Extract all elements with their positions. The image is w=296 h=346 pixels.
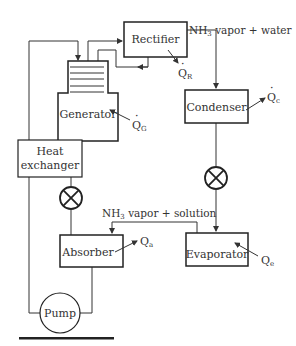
pump-label: Pump xyxy=(44,307,76,320)
evaporator-to-absorber-line xyxy=(112,222,197,233)
absorber-to-pump-line xyxy=(80,267,92,313)
expansion-valve-left-icon xyxy=(60,187,82,209)
evaporator-q-label: Qe xyxy=(261,254,274,268)
absorber-q-label: Qa xyxy=(140,235,153,249)
condenser-label: Condenser xyxy=(186,101,247,114)
rectifier-label: Rectifier xyxy=(132,33,181,46)
bottom-rule xyxy=(19,337,114,340)
absorber-label: Absorber xyxy=(61,246,114,259)
top-flow-label: NH3 vapor + water xyxy=(189,24,293,38)
generator-to-rectifier-line xyxy=(88,41,122,61)
heat-exchanger-label-1: Heat xyxy=(36,145,64,158)
condenser-heat-arrow xyxy=(246,98,265,110)
mid-flow-label: NH3 vapor + solution xyxy=(102,207,217,221)
generator-label: Generator xyxy=(59,108,117,121)
evaporator-label: Evaporator xyxy=(186,248,249,261)
svg-text:·: · xyxy=(181,58,185,71)
svg-text:·: · xyxy=(135,110,139,123)
absorption-cycle-diagram: Rectifier Generator Condenser Heat excha… xyxy=(0,0,296,346)
condenser-q-label: Qc xyxy=(267,91,280,105)
heat-exchanger-label-2: exchanger xyxy=(21,159,80,172)
svg-text:·: · xyxy=(270,82,274,95)
expansion-valve-right-icon xyxy=(205,167,227,189)
